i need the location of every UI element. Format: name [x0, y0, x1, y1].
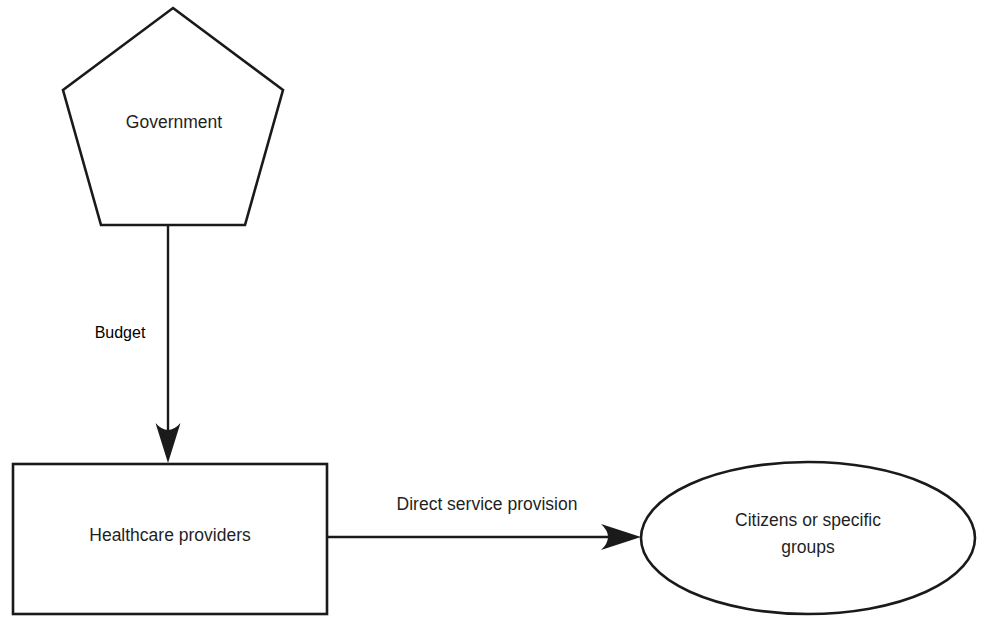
node-healthcare-providers-label: Healthcare providers	[89, 525, 251, 545]
node-healthcare-providers[interactable]: Healthcare providers	[13, 464, 327, 614]
edge-label-direct-service-provision: Direct service provision	[397, 494, 578, 514]
node-citizens-label-line1: Citizens or specific	[735, 510, 881, 530]
node-government[interactable]: Government	[63, 8, 283, 225]
node-citizens-label-line2: groups	[781, 537, 835, 557]
edge-government-to-providers[interactable]: Budget	[95, 225, 181, 463]
edge-providers-to-citizens[interactable]: Direct service provision	[327, 494, 641, 550]
diagram-canvas: Government Budget Healthcare providers D…	[0, 0, 981, 633]
diagram-root: Government Budget Healthcare providers D…	[0, 0, 981, 633]
edge-label-budget: Budget	[95, 324, 146, 341]
node-citizens[interactable]: Citizens or specific groups	[641, 462, 975, 614]
node-government-label: Government	[126, 112, 222, 132]
